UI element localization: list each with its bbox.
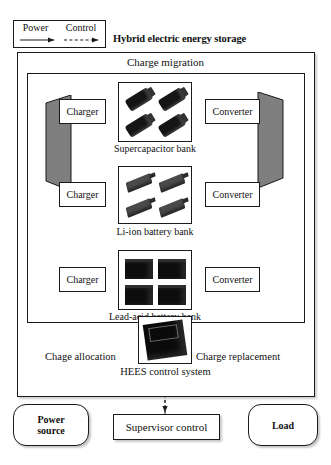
power-source-label-line2: source — [37, 425, 65, 436]
hees-control-chip[interactable] — [138, 316, 192, 364]
charger-label: Charger — [66, 106, 98, 117]
charger-label: Charger — [66, 274, 98, 285]
legend-arrows — [14, 34, 105, 47]
converter-label: Converter — [213, 106, 253, 117]
legend-power-label: Power — [23, 22, 49, 33]
lead-acid-battery-icon — [156, 281, 187, 305]
charger-supercapacitor[interactable]: Charger — [59, 99, 106, 124]
charger-lead-acid[interactable]: Charger — [59, 267, 106, 292]
converter-label: Converter — [213, 274, 253, 285]
microchip-icon — [143, 319, 188, 360]
liion-cell-icon — [156, 171, 187, 194]
converter-supercapacitor[interactable]: Converter — [205, 99, 260, 124]
diagram-root: Power Control Hybrid electric energy sto… — [0, 0, 331, 465]
supercapacitor-bank-label: Supercapacitor bank — [105, 143, 205, 154]
lead-acid-battery-icon — [123, 255, 154, 279]
converter-liion[interactable]: Converter — [205, 182, 260, 207]
liion-cell-icon — [123, 171, 154, 194]
charge-migration-label: Charge migration — [0, 56, 331, 68]
liion-cell-icon — [123, 196, 154, 219]
legend: Power Control — [13, 20, 106, 48]
legend-control-label: Control — [66, 22, 97, 33]
charger-liion[interactable]: Charger — [59, 182, 106, 207]
supercapacitor-icon — [156, 113, 187, 137]
power-source-node[interactable]: Power source — [13, 404, 89, 446]
lead-acid-battery-icon — [123, 281, 154, 305]
charge-allocation-label: Chage allocation — [45, 351, 116, 362]
load-label: Load — [272, 420, 294, 431]
lead-acid-battery-bank[interactable] — [118, 250, 192, 310]
converter-label: Converter — [213, 189, 253, 200]
charge-replacement-label: Charge replacement — [196, 351, 280, 362]
liion-bank-label: Li-ion battery bank — [105, 226, 205, 237]
liion-battery-bank[interactable] — [118, 166, 192, 224]
converter-lead-acid[interactable]: Converter — [205, 267, 260, 292]
supercapacitor-icon — [123, 87, 154, 111]
charger-label: Charger — [66, 189, 98, 200]
page-title: Hybrid electric energy storage — [113, 33, 246, 44]
supercapacitor-bank[interactable] — [118, 82, 192, 142]
lead-acid-battery-icon — [156, 255, 187, 279]
supercapacitor-icon — [123, 113, 154, 137]
supervisor-control-node[interactable]: Supervisor control — [113, 414, 220, 440]
liion-cell-icon — [156, 196, 187, 219]
power-source-label-line1: Power — [37, 414, 64, 425]
hees-control-system-label: HEES control system — [0, 366, 331, 377]
supervisor-control-label: Supervisor control — [126, 421, 208, 433]
supercapacitor-icon — [156, 87, 187, 111]
right-power-mux[interactable] — [256, 92, 290, 197]
load-node[interactable]: Load — [248, 404, 318, 446]
